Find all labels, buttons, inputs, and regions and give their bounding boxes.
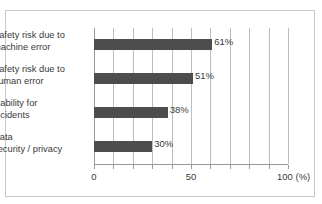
chart-title: Concerns about autonomous cars bbox=[0, 0, 322, 2]
category-label: Liability for incidents bbox=[0, 98, 85, 121]
x-tick-30 bbox=[152, 165, 153, 169]
category-label: Data security / privacy bbox=[0, 132, 85, 155]
x-tick-100 bbox=[288, 165, 289, 169]
chart-figure: Concerns about autonomous cars Safety ri… bbox=[0, 0, 322, 204]
x-axis: 0 50 100 (%) bbox=[94, 164, 288, 165]
category-label: Safety risk due to human error bbox=[0, 64, 85, 87]
bar-row: Data security / privacy 30% bbox=[94, 130, 288, 164]
bar bbox=[94, 107, 168, 118]
x-tick-20 bbox=[133, 165, 134, 169]
bar-row: Liability for incidents 38% bbox=[94, 96, 288, 130]
bar-row: Safety risk due to human error 51% bbox=[94, 62, 288, 96]
bar-value-label: 38% bbox=[170, 104, 189, 115]
bar-value-label: 61% bbox=[214, 36, 233, 47]
x-tick-50 bbox=[191, 165, 192, 169]
x-tick-90 bbox=[269, 165, 270, 169]
plot-area: Safety risk due to machine error 61% Saf… bbox=[94, 28, 288, 164]
gridline-100 bbox=[288, 28, 289, 164]
x-tick-10 bbox=[113, 165, 114, 169]
bar bbox=[94, 39, 212, 50]
category-label: Safety risk due to machine error bbox=[0, 30, 85, 53]
x-tick-label-0: 0 bbox=[91, 171, 96, 182]
bar-row: Safety risk due to machine error 61% bbox=[94, 28, 288, 62]
x-tick-0 bbox=[94, 165, 95, 169]
x-tick-80 bbox=[249, 165, 250, 169]
x-tick-label-100: 100 (%) bbox=[277, 171, 310, 182]
x-tick-60 bbox=[210, 165, 211, 169]
bar bbox=[94, 73, 193, 84]
x-tick-label-50: 50 bbox=[186, 171, 197, 182]
bar bbox=[94, 141, 152, 152]
x-tick-40 bbox=[172, 165, 173, 169]
x-tick-70 bbox=[230, 165, 231, 169]
bar-value-label: 30% bbox=[154, 138, 173, 149]
bar-value-label: 51% bbox=[195, 70, 214, 81]
